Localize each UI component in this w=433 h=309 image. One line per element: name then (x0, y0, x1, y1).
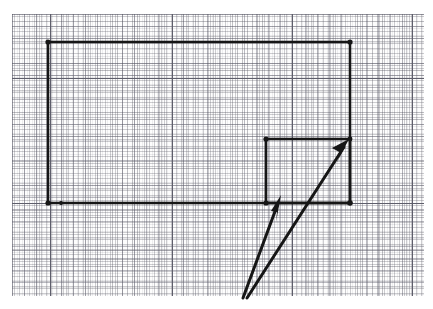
scanned-figure: Two nested rectangles with two vectors f… (0, 0, 433, 309)
major-gridline-vertical (172, 14, 173, 296)
major-gridline-vertical (412, 14, 413, 296)
major-gridline-vertical (292, 14, 293, 296)
major-gridline-horizontal (12, 203, 424, 204)
major-gridline-horizontal (12, 78, 424, 79)
figure-title: Two nested rectangles with two vectors f… (0, 0, 1, 1)
graph-paper-sheet (12, 14, 424, 296)
major-gridline-horizontal (12, 250, 424, 251)
scan-noise-texture (12, 14, 424, 296)
major-gridline-vertical (50, 14, 51, 296)
